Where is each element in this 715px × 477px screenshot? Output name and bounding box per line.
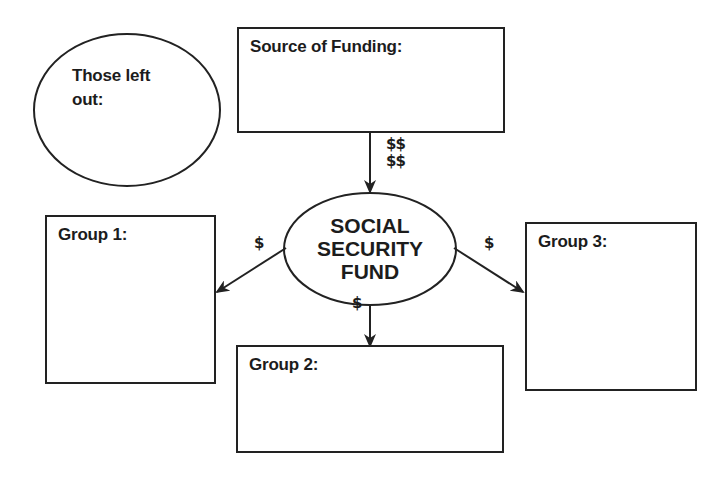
group1-flow-money-label: $ [254, 235, 263, 252]
source-of-funding-label: Source of Funding: [250, 37, 402, 57]
excluded-oval: Those left out: [72, 64, 150, 112]
group2-box[interactable]: Group 2: [236, 345, 504, 453]
source-flow-money-label: $$ $$ [386, 136, 405, 170]
fund-label-line3: FUND [300, 260, 440, 283]
group1-box[interactable]: Group 1: [45, 215, 216, 384]
excluded-label-line1: Those left [72, 64, 150, 88]
excluded-label-line2: out: [72, 88, 150, 112]
fund-label-line1: SOCIAL [300, 214, 440, 237]
fund-label-line2: SECURITY [300, 237, 440, 260]
social-security-fund-node: SOCIAL SECURITY FUND [300, 214, 440, 283]
arrow-fund-to-group3 [454, 248, 523, 292]
group3-label: Group 3: [538, 232, 607, 252]
group3-flow-money-label: $ [484, 235, 493, 252]
group1-label: Group 1: [58, 225, 127, 245]
social-security-diagram: Those left out: Source of Funding: $$ $$… [0, 0, 715, 477]
arrow-fund-to-group1 [217, 248, 286, 292]
money-line2: $$ [386, 153, 405, 170]
source-of-funding-box[interactable]: Source of Funding: [237, 27, 505, 133]
group2-label: Group 2: [249, 355, 318, 375]
group3-box[interactable]: Group 3: [525, 222, 697, 391]
money-line1: $$ [386, 136, 405, 153]
group2-flow-money-label: $ [352, 295, 361, 312]
